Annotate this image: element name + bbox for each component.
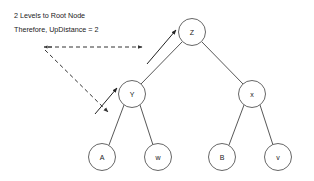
node-right-child-label: x (250, 91, 254, 98)
annotation-line-1: 2 Levels to Root Node (14, 11, 85, 20)
edge-root-to-left-child (141, 42, 182, 84)
node-right-child[interactable]: x (239, 81, 266, 108)
node-leaf-a[interactable]: A (89, 144, 116, 171)
edge-right-child-to-leaf-v (260, 105, 273, 145)
diagram-canvas: 2 Levels to Root Node Therefore, UpDista… (0, 0, 314, 181)
node-leaf-w-label: w (154, 154, 161, 161)
dashed-diagonal-arrow (45, 50, 108, 112)
tree-nodes: Z Y x A w B v (89, 19, 292, 171)
node-left-child-label: Y (130, 91, 135, 98)
edge-left-child-to-leaf-w (140, 105, 153, 145)
edge-root-to-right-child (202, 42, 243, 84)
solid-arrow-to-root (147, 30, 176, 64)
node-root[interactable]: Z (179, 19, 206, 46)
binary-tree-diagram: 2 Levels to Root Node Therefore, UpDista… (0, 0, 314, 181)
node-leaf-b[interactable]: B (209, 144, 236, 171)
node-left-child[interactable]: Y (119, 81, 146, 108)
edge-left-child-to-leaf-a (109, 105, 124, 145)
node-leaf-b-label: B (220, 154, 225, 161)
node-leaf-w[interactable]: w (145, 144, 172, 171)
node-root-label: Z (190, 29, 195, 36)
node-leaf-v[interactable]: v (265, 144, 292, 171)
edge-right-child-to-leaf-b (229, 105, 244, 145)
node-leaf-a-label: A (100, 154, 105, 161)
annotation-line-2: Therefore, UpDistance = 2 (14, 25, 99, 34)
node-leaf-v-label: v (276, 154, 280, 161)
